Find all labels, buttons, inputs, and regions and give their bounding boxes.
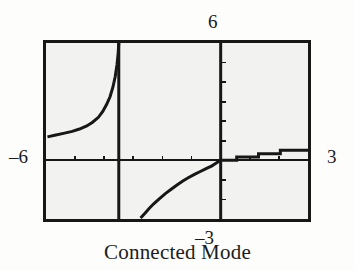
curve-series-4: [221, 150, 308, 160]
figure-container: 6 –3 –6 3 Connected Mode: [0, 0, 355, 270]
x-min-label: –6: [9, 147, 28, 166]
function-curve-layer: [47, 43, 308, 219]
curve-series-2: [141, 160, 221, 218]
figure-caption: Connected Mode: [0, 240, 355, 265]
y-max-label: 6: [208, 12, 218, 31]
axes-layer: [46, 43, 308, 219]
curve-series-0: [47, 43, 118, 137]
x-max-label: 3: [327, 147, 337, 166]
plot-canvas: [46, 43, 308, 219]
calculator-screen: [43, 40, 311, 222]
tick-marks-layer: [75, 63, 279, 200]
